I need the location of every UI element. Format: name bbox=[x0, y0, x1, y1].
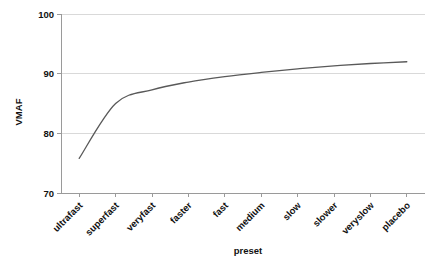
y-tick-labels: 708090100 bbox=[38, 9, 54, 199]
x-tick-label-veryslow: veryslow bbox=[339, 199, 376, 236]
y-tick-label-90: 90 bbox=[43, 68, 54, 79]
x-tick-label-slower: slower bbox=[310, 199, 339, 228]
y-tick-label-80: 80 bbox=[43, 128, 54, 139]
y-tick-label-70: 70 bbox=[43, 188, 54, 199]
x-tick-label-superfast: superfast bbox=[83, 199, 122, 238]
vmaf-preset-line-chart: 708090100 ultrafastsuperfastveryfastfast… bbox=[0, 0, 434, 268]
y-axis-title: VMAF bbox=[13, 98, 24, 125]
chart-container: 708090100 ultrafastsuperfastveryfastfast… bbox=[0, 0, 434, 268]
x-tick-label-faster: faster bbox=[168, 199, 194, 225]
x-tick-label-fast: fast bbox=[210, 199, 230, 219]
y-axis bbox=[57, 14, 61, 193]
x-tick-label-veryfast: veryfast bbox=[124, 199, 158, 233]
x-axis bbox=[61, 193, 425, 197]
x-tick-labels: ultrafastsuperfastveryfastfasterfastmedi… bbox=[50, 199, 412, 238]
x-tick-label-slow: slow bbox=[280, 199, 303, 222]
x-tick-label-placebo: placebo bbox=[379, 200, 412, 233]
data-series-vmaf bbox=[79, 62, 407, 159]
x-tick-label-ultrafast: ultrafast bbox=[50, 199, 85, 234]
x-axis-title: preset bbox=[234, 245, 263, 256]
y-tick-label-100: 100 bbox=[38, 9, 54, 20]
series-line-vmaf bbox=[79, 62, 407, 159]
x-tick-label-medium: medium bbox=[233, 200, 267, 234]
